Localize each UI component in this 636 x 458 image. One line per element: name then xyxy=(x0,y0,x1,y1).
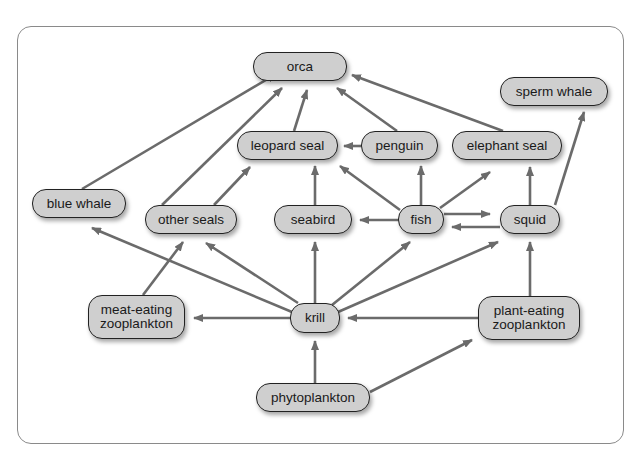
node-penguin: penguin xyxy=(361,131,438,160)
node-squid: squid xyxy=(500,205,560,234)
arrow-squid-to-sperm-whale xyxy=(555,112,584,205)
arrow-leopard-seal-to-orca xyxy=(294,90,307,131)
node-seabird: seabird xyxy=(274,205,352,234)
node-label: seabird xyxy=(291,213,335,227)
node-krill: krill xyxy=(290,303,340,333)
node-leopard-seal: leopard seal xyxy=(237,131,338,160)
arrow-meat-zoo-to-other-seals xyxy=(143,242,183,295)
node-plant-zoo: plant-eating zooplankton xyxy=(478,296,580,340)
node-label: squid xyxy=(514,213,546,227)
node-label: sperm whale xyxy=(516,85,593,99)
node-label: penguin xyxy=(375,139,423,153)
node-other-seals: other seals xyxy=(145,205,237,234)
arrow-fish-to-elephant-seal xyxy=(440,172,490,208)
node-label: krill xyxy=(305,311,325,325)
node-phytoplankton: phytoplankton xyxy=(256,383,370,412)
node-label: orca xyxy=(287,60,313,74)
arrow-krill-to-fish xyxy=(332,242,410,305)
node-fish: fish xyxy=(398,205,444,234)
node-label: blue whale xyxy=(47,197,112,211)
node-orca: orca xyxy=(253,52,347,81)
arrow-phytoplankton-to-plant-zoo xyxy=(370,340,472,392)
node-label: meat-eating zooplankton xyxy=(100,303,173,331)
node-label: other seals xyxy=(158,213,224,227)
node-meat-zoo: meat-eating zooplankton xyxy=(88,295,185,339)
node-label: leopard seal xyxy=(251,139,325,153)
arrow-penguin-to-orca xyxy=(337,88,397,131)
node-sperm-whale: sperm whale xyxy=(500,77,608,106)
node-elephant-seal: elephant seal xyxy=(452,131,562,160)
node-label: fish xyxy=(410,213,431,227)
arrow-other-seals-to-leopard-seal xyxy=(214,167,250,205)
node-label: elephant seal xyxy=(467,139,547,153)
food-web-diagram: orcasperm whaleleopard sealpenguinelepha… xyxy=(0,0,636,458)
arrow-krill-to-squid xyxy=(338,242,498,312)
node-blue-whale: blue whale xyxy=(32,189,126,218)
node-label: plant-eating zooplankton xyxy=(493,304,566,332)
arrow-elephant-seal-to-orca xyxy=(352,75,503,131)
arrow-fish-to-leopard-seal xyxy=(340,166,400,210)
node-label: phytoplankton xyxy=(271,391,355,405)
